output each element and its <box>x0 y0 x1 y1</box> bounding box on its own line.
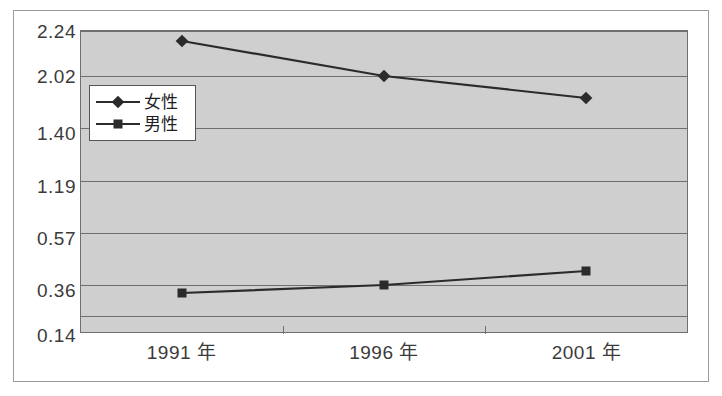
legend-label-female: 女性 <box>144 94 178 111</box>
y-axis-label: 1.40 <box>4 124 76 143</box>
data-point-male-1991 <box>178 289 187 298</box>
data-point-male-1996 <box>380 281 389 290</box>
plot-area <box>80 30 688 333</box>
gridline <box>81 332 687 333</box>
line-chart: 2.24 2.02 1.40 1.19 0.57 0.36 0.14 1991 … <box>0 0 722 396</box>
y-axis-label: 1.19 <box>4 177 76 196</box>
x-axis: 1991 年 1996 年 2001 年 <box>80 343 688 373</box>
legend-marker-diamond-icon <box>96 95 140 109</box>
legend-label-male: 男性 <box>144 116 178 133</box>
data-point-male-2001 <box>582 267 591 276</box>
x-axis-tick <box>283 326 284 334</box>
legend-item-male: 男性 <box>96 113 189 135</box>
x-axis-tick <box>485 326 486 334</box>
legend-marker-square-icon <box>96 117 140 131</box>
y-axis-label: 0.36 <box>4 281 76 300</box>
y-axis-label: 0.14 <box>4 326 76 345</box>
legend-item-female: 女性 <box>96 91 189 113</box>
y-axis: 2.24 2.02 1.40 1.19 0.57 0.36 0.14 <box>0 0 76 396</box>
chart-legend: 女性 男性 <box>89 85 196 141</box>
y-axis-label: 2.24 <box>4 22 76 41</box>
y-axis-label: 2.02 <box>4 67 76 86</box>
x-axis-label: 2001 年 <box>552 343 622 362</box>
y-axis-label: 0.57 <box>4 229 76 248</box>
x-axis-label: 1996 年 <box>349 343 419 362</box>
x-axis-label: 1991 年 <box>147 343 217 362</box>
